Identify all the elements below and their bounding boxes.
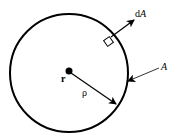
surface-label: A	[160, 61, 168, 72]
normal-arrow	[111, 20, 134, 37]
surface-pointer-arrow	[128, 68, 159, 81]
area-element-square	[104, 37, 114, 47]
radius-arrow	[71, 73, 116, 104]
area-element-label: dA	[135, 8, 147, 19]
diagram-canvas: r ρ dA A	[0, 0, 178, 138]
center-label: r	[61, 73, 66, 84]
radius-label: ρ	[82, 87, 87, 98]
